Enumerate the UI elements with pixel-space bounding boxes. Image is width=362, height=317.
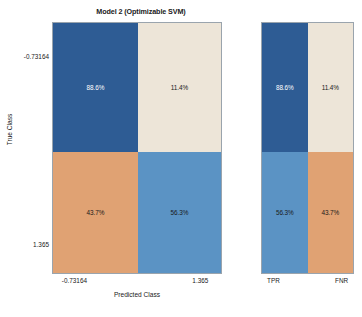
- side-cell-1-0[interactable]: 56.3% TPR: [262, 152, 308, 273]
- matrix-cell-value: 43.7%: [87, 209, 105, 216]
- x-axis-label: Predicted Class: [52, 291, 222, 298]
- matrix-cell-1-1[interactable]: 56.3% 1.365: [138, 152, 221, 273]
- side-tick-label-fnr: FNR: [335, 277, 348, 284]
- side-cell-0-0[interactable]: 88.6%: [262, 23, 308, 152]
- y-axis-label: True Class: [6, 95, 13, 165]
- matrix-cell-0-1[interactable]: 11.4%: [138, 23, 221, 152]
- side-cell-value: 88.6%: [276, 84, 294, 91]
- matrix-cell-0-0[interactable]: 88.6% -0.73164 -0.73164: [53, 23, 138, 152]
- tpr-fnr-panel: 88.6% 11.4% 56.3% TPR 43.7% FNR: [261, 22, 354, 274]
- matrix-cell-value: 11.4%: [171, 84, 188, 91]
- side-cell-value: 56.3%: [276, 209, 294, 216]
- side-cell-value: 43.7%: [321, 209, 339, 216]
- side-cell-value: 11.4%: [322, 84, 339, 91]
- confusion-matrix-figure: Model 2 (Optimizable SVM) True Class Pre…: [0, 0, 362, 317]
- confusion-matrix-grid: 88.6% -0.73164 -0.73164 11.4% 43.7% 1.36…: [52, 22, 222, 274]
- y-tick-label-0: -0.73164: [1, 53, 53, 60]
- x-tick-label-0b: -0.73164: [62, 277, 87, 284]
- matrix-cell-value: 56.3%: [171, 209, 189, 216]
- matrix-cell-value: 88.6%: [87, 84, 105, 91]
- side-cell-0-1[interactable]: 11.4%: [308, 23, 354, 152]
- y-tick-label-1: 1.365: [1, 240, 53, 247]
- x-tick-label-1: 1.365: [192, 277, 208, 284]
- matrix-cell-1-0[interactable]: 43.7% 1.365 -0.73164: [53, 152, 138, 273]
- page-title: Model 2 (Optimizable SVM): [0, 7, 282, 16]
- side-tick-label-tpr: TPR: [267, 277, 280, 284]
- side-cell-1-1[interactable]: 43.7% FNR: [308, 152, 354, 273]
